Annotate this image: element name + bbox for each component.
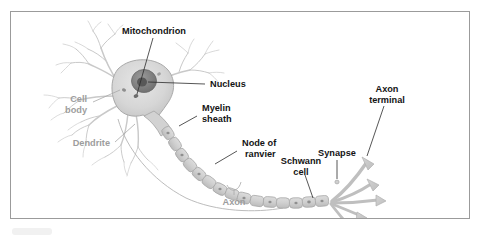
scan-artifact: [12, 228, 52, 235]
leader-axon-terminal: [367, 106, 384, 156]
label-myelin-sheath-line1: Myelin: [202, 103, 231, 113]
label-axon-terminal-line2: terminal: [369, 95, 405, 105]
leader-myelin-sheath: [179, 116, 197, 126]
label-schwann-cell-line2: cell: [293, 167, 308, 177]
leader-schwann-cell: [305, 175, 313, 198]
label-axon-terminal-line1: Axon: [376, 84, 399, 94]
figure-root: Mitochondrion Nucleus Cell body Dendrite…: [0, 0, 483, 239]
label-dendrite: Dendrite: [73, 138, 110, 148]
leader-node-of-ranvier: [215, 151, 237, 164]
label-schwann-cell-line1: Schwann: [281, 156, 322, 166]
label-node-of-ranvier-line2: ranvier: [245, 149, 276, 159]
label-axon: Axon: [223, 197, 246, 207]
label-synapse: Synapse: [318, 148, 356, 158]
label-nucleus: Nucleus: [210, 79, 246, 89]
nucleolus: [137, 77, 147, 86]
label-node-of-ranvier-line1: Node of: [242, 138, 277, 148]
neuron-diagram-panel: Mitochondrion Nucleus Cell body Dendrite…: [10, 11, 470, 219]
label-cell-body-line1: Cell: [70, 94, 87, 104]
axon-terminal-branches: [331, 162, 378, 218]
synapse-point: [335, 180, 339, 184]
neuron-illustration: Mitochondrion Nucleus Cell body Dendrite…: [11, 12, 469, 218]
label-myelin-sheath-line2: sheath: [202, 114, 232, 124]
leader-dendrite: [115, 124, 135, 142]
label-cell-body-line2: body: [65, 105, 88, 115]
label-mitochondrion: Mitochondrion: [122, 26, 186, 36]
